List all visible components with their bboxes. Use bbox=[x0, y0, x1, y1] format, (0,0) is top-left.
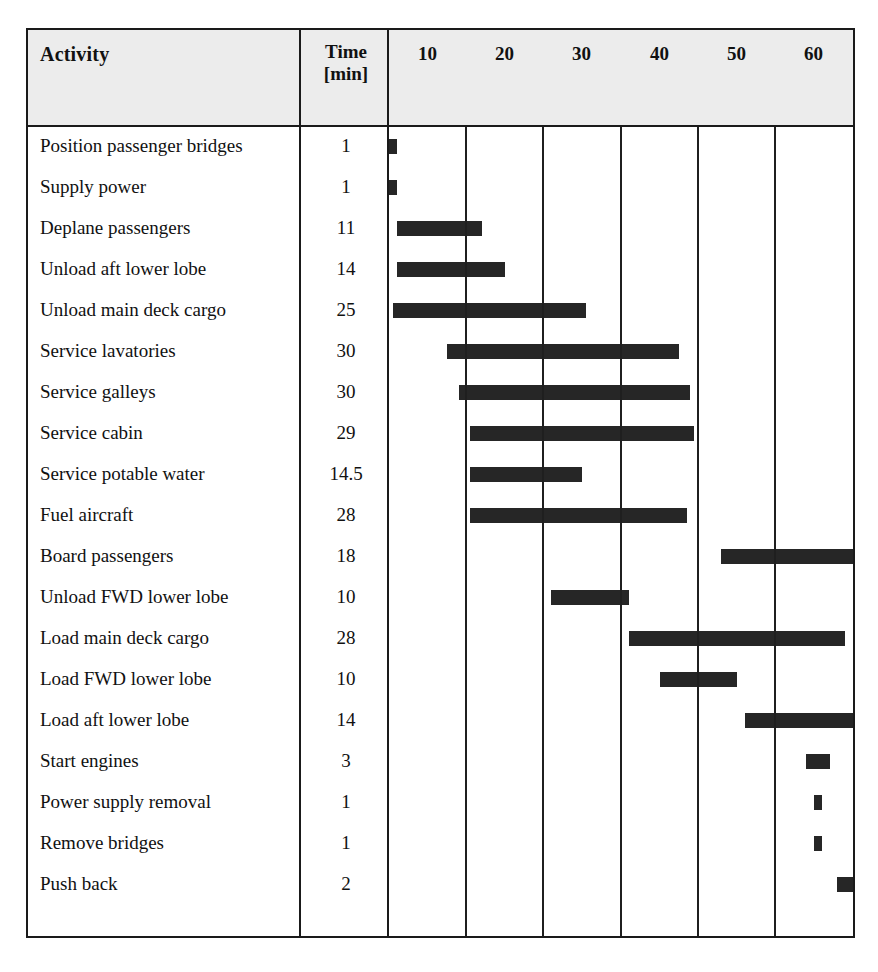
table-row: Load FWD lower lobe10 bbox=[28, 660, 853, 701]
table-row: Remove bridges1 bbox=[28, 824, 853, 865]
activity-label: Supply power bbox=[40, 176, 146, 198]
duration-value: 1 bbox=[307, 135, 385, 157]
gantt-bar bbox=[393, 303, 586, 318]
duration-value: 2 bbox=[307, 873, 385, 895]
column-header-time-line1: Time bbox=[325, 41, 367, 62]
table-row: Service potable water14.5 bbox=[28, 455, 853, 496]
duration-value: 25 bbox=[307, 299, 385, 321]
axis-tick-30: 30 bbox=[543, 43, 620, 65]
duration-value: 1 bbox=[307, 832, 385, 854]
duration-value: 3 bbox=[307, 750, 385, 772]
axis-tick-60: 60 bbox=[775, 43, 852, 65]
table-row: Start engines3 bbox=[28, 742, 853, 783]
column-header-time-line2: [min] bbox=[324, 63, 368, 84]
activity-label: Unload FWD lower lobe bbox=[40, 586, 228, 608]
gantt-bar bbox=[721, 549, 853, 564]
activity-label: Remove bridges bbox=[40, 832, 164, 854]
column-header-time: Time [min] bbox=[307, 41, 385, 85]
table-row: Position passenger bridges1 bbox=[28, 127, 853, 168]
gantt-bar bbox=[806, 754, 829, 769]
gantt-bar bbox=[745, 713, 853, 728]
activity-label: Service galleys bbox=[40, 381, 156, 403]
gantt-chart-sheet: Activity Time [min] 10 20 30 40 50 60 Po… bbox=[0, 0, 878, 972]
activity-label: Deplane passengers bbox=[40, 217, 190, 239]
activity-label: Unload aft lower lobe bbox=[40, 258, 206, 280]
table-row: Supply power1 bbox=[28, 168, 853, 209]
axis-tick-40: 40 bbox=[621, 43, 698, 65]
activity-label: Unload main deck cargo bbox=[40, 299, 226, 321]
table-row: Load main deck cargo28 bbox=[28, 619, 853, 660]
gantt-bar bbox=[629, 631, 845, 646]
table-row: Unload FWD lower lobe10 bbox=[28, 578, 853, 619]
gantt-bar bbox=[470, 508, 686, 523]
duration-value: 14 bbox=[307, 709, 385, 731]
table-row: Deplane passengers11 bbox=[28, 209, 853, 250]
table-row: Unload main deck cargo25 bbox=[28, 291, 853, 332]
gantt-bar bbox=[447, 344, 679, 359]
activity-label: Service cabin bbox=[40, 422, 143, 444]
gantt-bar bbox=[389, 139, 397, 154]
duration-value: 30 bbox=[307, 381, 385, 403]
activity-label: Fuel aircraft bbox=[40, 504, 133, 526]
table-row: Push back2 bbox=[28, 865, 853, 906]
duration-value: 11 bbox=[307, 217, 385, 239]
activity-label: Service lavatories bbox=[40, 340, 176, 362]
duration-value: 10 bbox=[307, 668, 385, 690]
activity-label: Push back bbox=[40, 873, 118, 895]
activity-label: Load FWD lower lobe bbox=[40, 668, 211, 690]
gantt-bar bbox=[470, 426, 694, 441]
table-row: Board passengers18 bbox=[28, 537, 853, 578]
activity-label: Board passengers bbox=[40, 545, 174, 567]
column-header-activity: Activity bbox=[40, 43, 109, 66]
gantt-bar bbox=[470, 467, 582, 482]
duration-value: 1 bbox=[307, 791, 385, 813]
activity-label: Load main deck cargo bbox=[40, 627, 209, 649]
gantt-bar bbox=[389, 180, 397, 195]
gantt-body: Position passenger bridges1Supply power1… bbox=[28, 127, 853, 936]
table-header-row: Activity Time [min] 10 20 30 40 50 60 bbox=[28, 30, 853, 127]
duration-value: 30 bbox=[307, 340, 385, 362]
gantt-bar bbox=[397, 221, 482, 236]
axis-tick-10: 10 bbox=[389, 43, 466, 65]
duration-value: 28 bbox=[307, 627, 385, 649]
activity-label: Load aft lower lobe bbox=[40, 709, 189, 731]
activity-label: Service potable water bbox=[40, 463, 205, 485]
gantt-bar bbox=[397, 262, 505, 277]
activity-label: Start engines bbox=[40, 750, 139, 772]
activity-label: Position passenger bridges bbox=[40, 135, 243, 157]
activity-label: Power supply removal bbox=[40, 791, 211, 813]
duration-value: 18 bbox=[307, 545, 385, 567]
table-row: Service cabin29 bbox=[28, 414, 853, 455]
gantt-bar bbox=[837, 877, 853, 892]
axis-tick-50: 50 bbox=[698, 43, 775, 65]
table-row: Fuel aircraft28 bbox=[28, 496, 853, 537]
duration-value: 29 bbox=[307, 422, 385, 444]
gantt-table: Activity Time [min] 10 20 30 40 50 60 Po… bbox=[26, 28, 855, 938]
duration-value: 28 bbox=[307, 504, 385, 526]
duration-value: 14 bbox=[307, 258, 385, 280]
gantt-bar bbox=[660, 672, 737, 687]
gantt-bar bbox=[551, 590, 628, 605]
gantt-bar bbox=[814, 795, 822, 810]
table-row: Load aft lower lobe14 bbox=[28, 701, 853, 742]
duration-value: 1 bbox=[307, 176, 385, 198]
axis-tick-20: 20 bbox=[466, 43, 543, 65]
table-row: Power supply removal1 bbox=[28, 783, 853, 824]
gantt-bar bbox=[459, 385, 691, 400]
table-row: Service lavatories30 bbox=[28, 332, 853, 373]
gantt-bar bbox=[814, 836, 822, 851]
table-row: Unload aft lower lobe14 bbox=[28, 250, 853, 291]
table-row: Service galleys30 bbox=[28, 373, 853, 414]
duration-value: 14.5 bbox=[307, 463, 385, 485]
duration-value: 10 bbox=[307, 586, 385, 608]
